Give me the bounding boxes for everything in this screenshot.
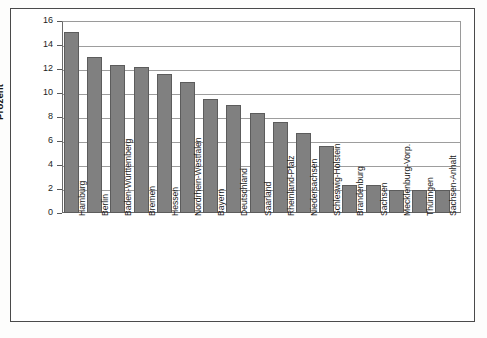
y-axis-title: Prozent (0, 84, 5, 120)
chart-figure: Prozent 0246810121416 HamburgBerlinBaden… (0, 0, 487, 338)
x-axis-tick-label: Niedersachsen (309, 159, 319, 216)
x-axis-tick-label: Berlin (100, 194, 110, 216)
y-axis-tick (57, 213, 62, 214)
x-axis-tick-label: Hamburg (77, 181, 87, 216)
y-axis-tick-label: 0 (31, 208, 53, 217)
y-axis-tick-label: 12 (31, 64, 53, 73)
y-axis-tick-label: 2 (31, 184, 53, 193)
x-axis-category-labels: HamburgBerlinBaden-WürttembergBremenHess… (62, 216, 461, 316)
x-axis-tick-label: Mecklenburg-Vorp. (402, 144, 412, 216)
x-axis-tick-label: Bayern (216, 189, 226, 216)
y-axis-tick-label: 4 (31, 160, 53, 169)
x-axis-tick-label: Sachsen-Anhalt (448, 155, 458, 216)
x-axis-tick-label: Schleswig-Holstein (332, 143, 342, 216)
x-axis-tick-label: Thüringen (425, 177, 435, 216)
x-axis-tick-label: Bremen (147, 186, 157, 216)
x-axis-tick-label: Baden-Württemberg (123, 139, 133, 216)
x-axis-tick-label: Nordrhein-Westfalen (193, 137, 203, 216)
y-axis-tick-label: 8 (31, 112, 53, 121)
x-axis-tick-label: Saarland (263, 182, 273, 216)
x-axis-tick-label: Sachsen (379, 183, 389, 216)
bar (87, 57, 102, 213)
x-axis-tick-label: Brandenburg (355, 166, 365, 216)
y-axis-tick-label: 6 (31, 136, 53, 145)
y-axis-tick-label: 14 (31, 40, 53, 49)
y-axis-tick-label: 10 (31, 88, 53, 97)
x-axis-tick-label: Hessen (170, 187, 180, 216)
y-axis-tick-label: 16 (31, 16, 53, 25)
x-axis-tick-label: Deutschland (239, 168, 249, 216)
x-axis-tick-label: Rheinland-Pfalz (286, 155, 296, 216)
